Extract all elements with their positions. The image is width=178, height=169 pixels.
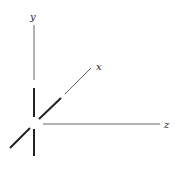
x-axis-thin-segment [65, 68, 91, 94]
x-axis-label: x [96, 61, 102, 72]
y-axis-label: y [29, 11, 36, 22]
z-axis-label: z [163, 119, 170, 130]
x-axis: x [10, 61, 102, 148]
axes-diagram: y x z [0, 0, 178, 169]
x-axis-thick-segment [39, 98, 61, 119]
y-axis: y [29, 11, 36, 156]
x-axis-negative-segment [10, 128, 30, 148]
z-axis: z [43, 119, 170, 130]
